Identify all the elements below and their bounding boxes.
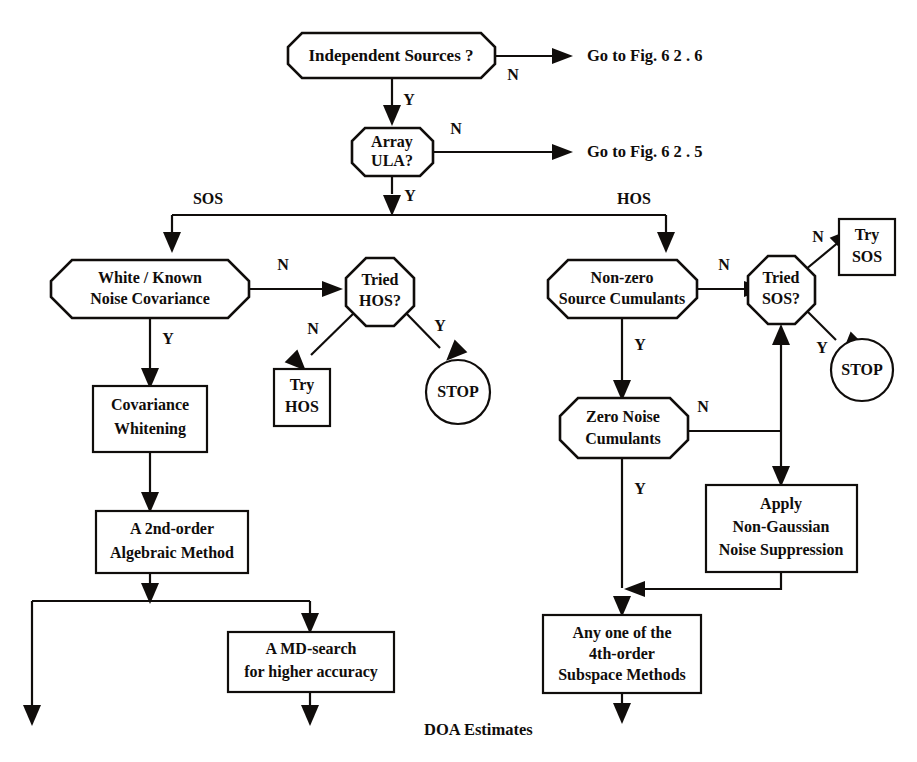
node-try-hos-label-line1: Try [290,376,315,394]
node-nonzero-source-cumulants-label-line1: Non-zero [591,269,654,286]
node-md-search[interactable]: A MD-search for higher accuracy [228,632,394,692]
edge-label-tried-hos-yes: Y [434,317,446,334]
arrowhead-independent-sources-no [552,48,573,64]
arrowhead-zero-noise-yes [613,596,631,617]
annotation-doa-estimates: DOA Estimates [424,720,533,739]
arrowhead-md-search-output [301,705,319,726]
node-fourth-order-subspace-label-line2: 4th-order [589,645,655,662]
node-stop-left-label: STOP [437,383,479,400]
node-try-sos-label-line2: SOS [852,248,882,265]
edge-label-nonzero-cumulants-no: N [718,256,730,273]
node-fourth-order-subspace-label-line1: Any one of the [572,624,671,642]
node-second-order-algebraic[interactable]: A 2nd-order Algebraic Method [96,511,248,573]
node-covariance-whitening-label-line1: Covariance [111,396,189,413]
node-md-search-label-line2: for higher accuracy [244,663,378,681]
edge-label-tried-sos-no: N [812,228,824,245]
node-stop-right-label: STOP [841,361,883,378]
annotation-goto-fig-625: Go to Fig. 6 2 . 5 [587,142,703,161]
edge-label-independent-sources-no: N [507,66,519,83]
arrowhead-white-known-no [322,281,343,297]
flowchart-canvas: Independent Sources ? Array ULA? White /… [0,0,917,762]
node-tried-sos-label-line1: Tried [762,269,799,286]
node-zero-noise-cumulants[interactable]: Zero Noise Cumulants [560,398,688,458]
node-independent-sources-label: Independent Sources ? [309,46,474,65]
node-nonzero-source-cumulants-label-line2: Source Cumulants [559,290,685,307]
edge-label-branch-sos: SOS [193,190,223,207]
arrowhead-to-md-search [301,613,319,634]
node-zero-noise-cumulants-label-line1: Zero Noise [586,408,660,425]
node-try-hos-label-line2: HOS [285,398,319,415]
node-zero-noise-cumulants-label-line2: Cumulants [585,430,661,447]
node-array-ula[interactable]: Array ULA? [352,128,433,176]
node-nonzero-source-cumulants[interactable]: Non-zero Source Cumulants [548,260,697,318]
node-tried-hos-label-line2: HOS? [359,292,401,309]
node-white-known-noise-covariance[interactable]: White / Known Noise Covariance [51,260,249,318]
edge-tried-sos-yes [806,310,836,340]
node-fourth-order-subspace[interactable]: Any one of the 4th-order Subspace Method… [543,615,701,693]
node-array-ula-label-line1: Array [371,133,413,151]
edge-tried-sos-no [805,241,840,270]
edge-label-tried-hos-no: N [307,320,319,337]
edge-label-tried-sos-yes: Y [816,339,828,356]
node-second-order-algebraic-label-line1: A 2nd-order [130,520,214,537]
node-tried-sos[interactable]: Tried SOS? [748,256,815,324]
arrowhead-array-ula-yes [383,195,401,216]
arrowhead-subspace-output [613,703,631,724]
arrowhead-independent-sources-yes [383,105,401,126]
node-independent-sources[interactable]: Independent Sources ? [288,33,495,78]
edge-label-white-known-yes: Y [162,330,174,347]
node-stop-left[interactable]: STOP [426,360,490,424]
edge-label-array-ula-yes: Y [404,187,416,204]
edge-label-zero-noise-no: N [697,398,709,415]
node-white-known-noise-label-line2: Noise Covariance [90,290,210,307]
edge-label-zero-noise-yes: Y [634,480,646,497]
node-try-hos[interactable]: Try HOS [274,369,330,426]
node-md-search-label-line1: A MD-search [266,640,357,657]
node-second-order-algebraic-label-line2: Algebraic Method [110,544,234,562]
node-covariance-whitening[interactable]: Covariance Whitening [93,386,207,452]
edge-apply-to-merge [643,572,781,589]
arrowhead-branch-sos [163,232,181,253]
node-stop-right[interactable]: STOP [831,339,893,401]
node-apply-nongaussian-label-line1: Apply [760,495,802,513]
edge-label-white-known-no: N [277,256,289,273]
arrowhead-array-ula-no [552,144,573,160]
arrowhead-branch-hos [657,232,675,253]
arrowhead-zero-noise-no-to-apply [772,466,790,487]
node-tried-hos[interactable]: Tried HOS? [346,258,414,326]
node-apply-nongaussian[interactable]: Apply Non-Gaussian Noise Suppression [706,485,857,572]
arrowhead-whitening-to-algebraic [141,492,159,513]
node-apply-nongaussian-label-line2: Non-Gaussian [733,518,830,535]
node-fourth-order-subspace-label-line3: Subspace Methods [558,666,686,684]
edge-label-array-ula-no: N [450,120,462,137]
annotation-goto-fig-626: Go to Fig. 6 2 . 6 [587,46,703,65]
edge-label-branch-hos: HOS [617,190,651,207]
node-try-sos[interactable]: Try SOS [839,219,895,275]
node-apply-nongaussian-label-line3: Noise Suppression [719,541,844,559]
node-try-sos-label-line1: Try [855,226,880,244]
node-array-ula-label-line2: ULA? [371,152,413,169]
node-tried-hos-label-line1: Tried [361,271,398,288]
arrowhead-left-output [23,705,41,726]
flowchart-page: Independent Sources ? Array ULA? White /… [0,0,917,762]
node-white-known-noise-label-line1: White / Known [98,269,202,286]
arrowhead-feedback-to-tried-sos [772,324,790,345]
edge-label-independent-sources-yes: Y [403,91,415,108]
node-covariance-whitening-label-line2: Whitening [114,420,186,438]
arrowhead-apply-to-merge [624,581,645,597]
edge-label-nonzero-cumulants-yes: Y [634,336,646,353]
node-tried-sos-label-line2: SOS? [762,290,800,307]
